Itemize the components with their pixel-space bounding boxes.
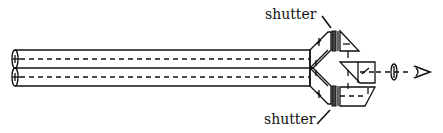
- shutter-bottom-label: shutter: [264, 111, 316, 127]
- upper-right-angle-prism: [340, 31, 359, 58]
- eye-icon: [414, 66, 430, 78]
- upper-tube: [12, 50, 310, 68]
- lower-periscope-prism: [310, 68, 331, 104]
- lower-shutter: [332, 86, 338, 106]
- lower-tube: [12, 68, 310, 86]
- shutter-bottom-leader: [317, 110, 330, 124]
- lower-right-prism: [340, 83, 375, 106]
- shutter-top-leader: [322, 16, 331, 28]
- optical-diagram: shutter shutter: [0, 0, 443, 133]
- beam-combiner-prism: [340, 62, 375, 83]
- shutter-top-label: shutter: [265, 6, 317, 22]
- upper-periscope-prism: [310, 32, 331, 68]
- upper-shutter: [332, 31, 338, 51]
